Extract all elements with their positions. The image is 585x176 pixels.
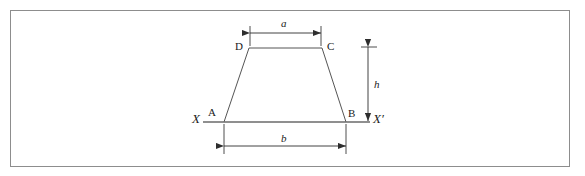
vertex-label-c: C [327,41,334,52]
axis-label-x-left: X [192,112,200,125]
dimension-label-b: b [281,133,287,144]
dimension-a [250,26,321,46]
figure-drawing [0,0,585,176]
segment-bc-right [322,48,346,122]
dimension-label-a: a [281,18,287,29]
vertex-label-a: A [208,107,216,118]
trapezoid-shape [224,48,346,122]
segment-ad-left [224,48,249,122]
figure-root: D C A B X X′ a b h [0,0,585,176]
dimension-label-h: h [374,79,380,90]
vertex-label-b: B [348,108,355,119]
axis-label-x-prime-right: X′ [373,112,384,125]
vertex-label-d: D [235,41,243,52]
